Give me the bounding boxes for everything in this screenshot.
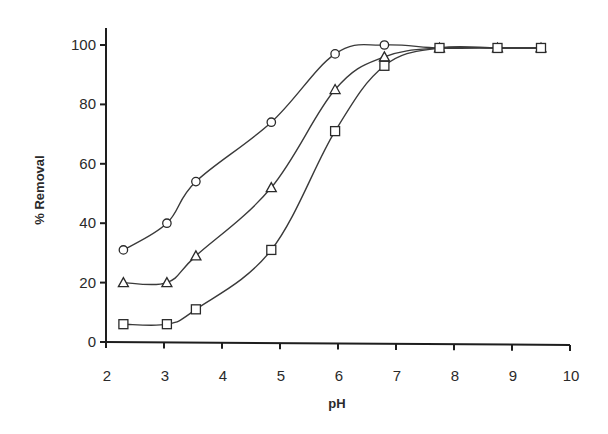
x-tick-label: 3 (161, 367, 169, 384)
chart: 2345678910020406080100 pH % Removal (0, 0, 608, 434)
triangle-marker (118, 278, 128, 287)
x-tick-label: 2 (103, 367, 111, 384)
x-tick-label: 5 (277, 367, 285, 384)
y-tick-label: 40 (79, 214, 96, 231)
square-marker (331, 127, 340, 136)
circle-marker (380, 41, 388, 49)
curve-square (123, 47, 541, 326)
square-marker (119, 320, 128, 329)
axes: 2345678910020406080100 (71, 28, 579, 384)
x-tick-label: 6 (335, 367, 343, 384)
square-marker (380, 61, 389, 70)
square-marker (162, 320, 171, 329)
triangle-marker (162, 278, 172, 287)
x-tick-label: 10 (563, 367, 580, 384)
y-tick-label: 60 (79, 155, 96, 172)
square-marker (435, 43, 444, 52)
y-tick-label: 0 (88, 333, 96, 350)
circle-marker (163, 219, 171, 227)
triangle-marker (379, 52, 389, 61)
y-tick-label: 100 (71, 36, 96, 53)
circle-marker (331, 50, 339, 58)
x-tick-label: 8 (451, 367, 459, 384)
y-tick-label: 80 (79, 95, 96, 112)
y-tick-label: 20 (79, 274, 96, 291)
square-marker (493, 43, 502, 52)
curves (123, 45, 541, 326)
square-marker (267, 245, 276, 254)
curve-circle (123, 45, 541, 250)
circle-marker (192, 177, 200, 185)
y-axis-title: % Removal (32, 155, 47, 224)
x-tick-label: 7 (393, 367, 401, 384)
square-marker (537, 43, 546, 52)
markers (118, 41, 546, 329)
x-tick-label: 4 (219, 367, 227, 384)
circle-marker (119, 246, 127, 254)
curve-triangle (123, 47, 541, 284)
square-marker (191, 305, 200, 314)
circle-marker (267, 118, 275, 126)
x-tick-label: 9 (509, 367, 517, 384)
x-axis-title: pH (328, 396, 345, 411)
